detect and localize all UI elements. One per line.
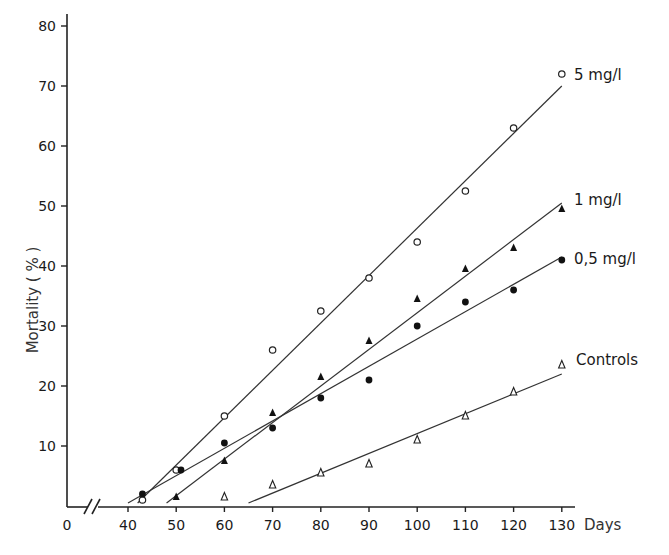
open-triangle-marker: [221, 493, 227, 501]
y-tick-label: 60: [38, 138, 56, 154]
fit-line: [167, 203, 562, 503]
x-ticks: 0405060708090100110120130: [63, 507, 576, 533]
y-axis-title: Mortality ( % ): [24, 247, 42, 354]
filled-circle-marker: [317, 395, 324, 402]
x-tick-label: 130: [548, 517, 575, 533]
open-triangle-marker: [269, 481, 275, 489]
y-ticks: 1020304050607080: [38, 18, 67, 454]
open-triangle-marker: [510, 388, 516, 396]
open-triangle-marker: [366, 460, 372, 468]
open-circle-marker: [318, 308, 324, 314]
filled-circle-marker: [139, 491, 146, 498]
open-circle-marker: [462, 188, 468, 194]
filled-circle-marker: [221, 440, 228, 447]
label-controls: Controls: [576, 351, 638, 369]
filled-triangle-marker: [414, 295, 421, 303]
filled-circle-marker: [178, 467, 185, 474]
filled-circle-marker: [269, 425, 276, 432]
mortality-chart: 1020304050607080 04050607080901001101201…: [0, 0, 669, 555]
label-1mg: 1 mg/l: [574, 191, 622, 209]
y-tick-label: 50: [38, 198, 56, 214]
open-circle-marker: [139, 497, 145, 503]
x-tick-label: 60: [215, 517, 233, 533]
y-tick-label: 10: [38, 438, 56, 454]
y-tick-label: 80: [38, 18, 56, 34]
open-circle-marker: [269, 347, 275, 353]
x-tick-label: 80: [312, 517, 330, 533]
x-tick-label: 50: [167, 517, 185, 533]
regression-lines: [128, 86, 562, 503]
filled-circle-marker: [558, 257, 565, 264]
open-circle-marker: [559, 71, 565, 77]
open-circle-marker: [366, 275, 372, 281]
x-tick-label: 120: [500, 517, 527, 533]
filled-triangle-marker: [269, 409, 276, 417]
filled-circle-marker: [462, 299, 469, 306]
label-5mg: 5 mg/l: [574, 66, 622, 84]
x-tick-label: 90: [360, 517, 378, 533]
filled-triangle-marker: [317, 373, 324, 381]
open-circle-marker: [414, 239, 420, 245]
open-triangle-marker: [559, 361, 565, 369]
y-tick-label: 70: [38, 78, 56, 94]
label-05mg: 0,5 mg/l: [574, 250, 636, 268]
fit-line: [138, 86, 562, 503]
open-circle-marker: [221, 413, 227, 419]
filled-triangle-marker: [558, 205, 565, 213]
filled-triangle-marker: [462, 265, 469, 273]
x-axis-title: Days: [584, 516, 622, 534]
filled-triangle-marker: [366, 337, 373, 345]
open-circle-marker: [510, 125, 516, 131]
open-triangle-marker: [414, 436, 420, 444]
y-tick-label: 20: [38, 378, 56, 394]
filled-circle-marker: [414, 323, 421, 330]
fit-line: [128, 257, 562, 503]
x-tick-label: 110: [452, 517, 479, 533]
x-tick-label: 0: [63, 517, 72, 533]
filled-triangle-marker: [510, 244, 517, 252]
filled-circle-marker: [510, 287, 517, 294]
filled-circle-marker: [366, 377, 373, 384]
x-tick-label: 40: [119, 517, 137, 533]
x-tick-label: 100: [404, 517, 431, 533]
x-tick-label: 70: [264, 517, 282, 533]
